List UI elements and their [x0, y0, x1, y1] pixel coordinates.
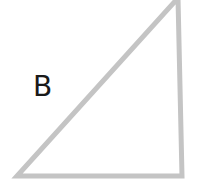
- triangle-label-b: B: [33, 73, 52, 101]
- triangle-diagram: [0, 0, 203, 181]
